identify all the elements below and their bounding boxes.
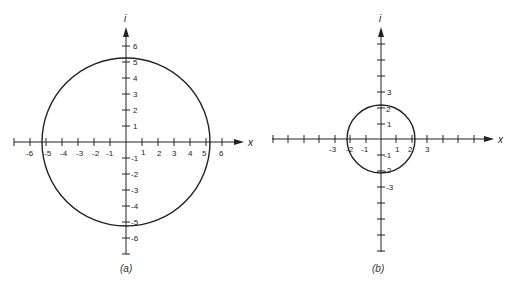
y-arrow-a	[123, 27, 129, 37]
svg-text:3: 3	[133, 90, 138, 99]
caption-a: (a)	[120, 263, 132, 274]
x-axis-label-a: x	[247, 137, 254, 148]
plot-b	[272, 27, 494, 252]
svg-text:2: 2	[133, 106, 138, 115]
svg-text:-2: -2	[131, 170, 139, 179]
svg-text:1: 1	[387, 120, 392, 129]
svg-text:1: 1	[395, 145, 400, 154]
svg-text:1: 1	[141, 148, 146, 157]
x-arrow-b	[484, 136, 494, 142]
svg-text:-3: -3	[76, 149, 84, 158]
svg-text:-1: -1	[106, 149, 114, 158]
svg-text:6: 6	[219, 149, 224, 158]
svg-text:-6: -6	[131, 234, 139, 243]
plot-a	[14, 27, 244, 254]
svg-text:2: 2	[408, 145, 413, 154]
svg-text:3: 3	[387, 88, 392, 97]
figure-canvas: x i -6 -5 -4 -3 -2 -1 1 2 3 4 5 6 6 5 4 …	[0, 0, 508, 283]
svg-text:-6: -6	[26, 149, 34, 158]
x-arrow-a	[234, 139, 244, 145]
svg-text:-3: -3	[386, 183, 394, 192]
y-tick-labels-b: 3 2 1 -1 -2 -3	[384, 88, 394, 192]
svg-text:-5: -5	[131, 218, 139, 227]
svg-text:4: 4	[133, 74, 138, 83]
svg-text:-5: -5	[44, 149, 52, 158]
svg-text:3: 3	[172, 149, 177, 158]
svg-text:-4: -4	[60, 149, 68, 158]
svg-text:2: 2	[386, 105, 391, 114]
svg-text:-1: -1	[384, 151, 392, 160]
svg-text:-1: -1	[131, 154, 139, 163]
caption-b: (b)	[372, 263, 384, 274]
svg-text:-4: -4	[131, 202, 139, 211]
svg-text:-3: -3	[131, 186, 139, 195]
svg-text:3: 3	[425, 145, 430, 154]
svg-text:5: 5	[133, 58, 138, 67]
svg-text:6: 6	[133, 42, 138, 51]
x-axis-label-b: x	[497, 134, 504, 145]
svg-text:5: 5	[202, 149, 207, 158]
svg-text:2: 2	[157, 149, 162, 158]
svg-text:-2: -2	[346, 145, 354, 154]
y-axis-label-a: i	[124, 13, 127, 24]
y-axis-label-b: i	[379, 13, 382, 24]
svg-text:-2: -2	[92, 149, 100, 158]
svg-text:-2: -2	[384, 166, 392, 175]
svg-text:1: 1	[133, 122, 138, 131]
svg-text:-1: -1	[361, 145, 369, 154]
svg-text:4: 4	[188, 149, 193, 158]
y-arrow-b	[378, 27, 384, 37]
x-tick-labels-a: -6 -5 -4 -3 -2 -1 1 2 3 4 5 6	[26, 148, 224, 158]
svg-text:-3: -3	[329, 145, 337, 154]
